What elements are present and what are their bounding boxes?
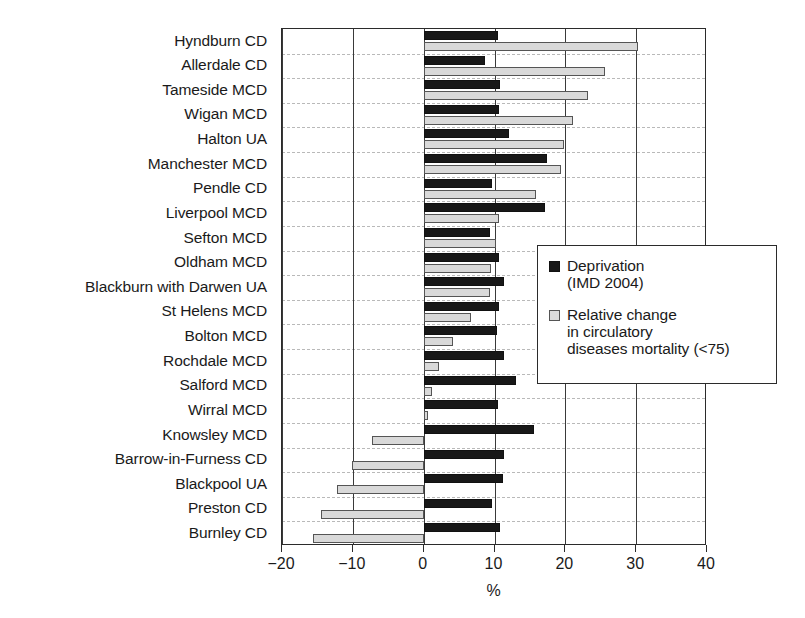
category-label: Wirral MCD xyxy=(0,397,274,422)
category-label: Pendle CD xyxy=(0,176,274,201)
legend-entry: Relative changein circulatorydiseases mo… xyxy=(549,306,766,358)
bar-group xyxy=(282,448,705,473)
category-label: Blackburn with Darwen UA xyxy=(0,274,274,299)
category-label: Bolton MCD xyxy=(0,324,274,349)
bar-chart: Hyndburn CDAllerdale CDTameside MCDWigan… xyxy=(0,0,805,618)
bar-deprivation xyxy=(424,499,493,508)
x-tick-label: 30 xyxy=(626,555,644,573)
bar-relative-change xyxy=(424,165,561,174)
category-label: Liverpool MCD xyxy=(0,200,274,225)
bar-group xyxy=(282,177,705,202)
bar-deprivation xyxy=(424,154,547,163)
legend-swatch-black-square-icon xyxy=(549,261,560,272)
bar-deprivation xyxy=(424,31,498,40)
x-tick-label: 20 xyxy=(555,555,573,573)
bar-group xyxy=(282,497,705,522)
bar-relative-change xyxy=(313,534,424,543)
chart-legend: Deprivation(IMD 2004)Relative changein c… xyxy=(537,245,777,384)
x-tick xyxy=(423,545,424,552)
bar-relative-change xyxy=(424,190,536,199)
bar-deprivation xyxy=(424,425,535,434)
bar-deprivation xyxy=(424,277,505,286)
bar-group xyxy=(282,29,705,54)
legend-swatch-gray-square-icon xyxy=(549,310,560,321)
bar-relative-change xyxy=(424,140,564,149)
category-label: Allerdale CD xyxy=(0,53,274,78)
bar-group xyxy=(282,127,705,152)
category-label: Tameside MCD xyxy=(0,77,274,102)
legend-label: Deprivation(IMD 2004) xyxy=(567,257,644,292)
category-label: Preston CD xyxy=(0,496,274,521)
bar-relative-change xyxy=(424,264,491,273)
bar-group xyxy=(282,78,705,103)
x-axis: −20−10010203040 xyxy=(281,545,706,546)
x-tick-label: −10 xyxy=(338,555,365,573)
bar-group xyxy=(282,54,705,79)
bar-deprivation xyxy=(424,253,500,262)
bar-deprivation xyxy=(424,302,500,311)
bar-deprivation xyxy=(424,450,504,459)
bar-deprivation xyxy=(424,376,517,385)
bar-deprivation xyxy=(424,351,505,360)
legend-entry: Deprivation(IMD 2004) xyxy=(549,257,766,292)
x-tick-label: 10 xyxy=(485,555,503,573)
category-label: Oldham MCD xyxy=(0,250,274,275)
bar-group xyxy=(282,472,705,497)
bar-deprivation xyxy=(424,474,503,483)
bar-relative-change xyxy=(337,485,424,494)
bar-group xyxy=(282,103,705,128)
bar-deprivation xyxy=(424,523,501,532)
bar-relative-change xyxy=(321,510,424,519)
x-tick xyxy=(494,545,495,552)
x-tick-label: 40 xyxy=(697,555,715,573)
x-tick xyxy=(635,545,636,552)
x-tick xyxy=(564,545,565,552)
category-label: Halton UA xyxy=(0,127,274,152)
category-axis-labels: Hyndburn CDAllerdale CDTameside MCDWigan… xyxy=(0,28,274,545)
x-tick xyxy=(706,545,707,552)
category-label: Wigan MCD xyxy=(0,102,274,127)
bar-deprivation xyxy=(424,179,492,188)
bar-relative-change xyxy=(424,91,588,100)
bar-relative-change xyxy=(424,239,496,248)
bar-relative-change xyxy=(424,411,428,420)
bar-deprivation xyxy=(424,105,500,114)
bar-deprivation xyxy=(424,326,498,335)
bar-deprivation xyxy=(424,129,510,138)
x-tick-label: −20 xyxy=(267,555,294,573)
bar-group xyxy=(282,521,705,544)
bar-relative-change xyxy=(424,337,453,346)
bar-relative-change xyxy=(424,387,433,396)
bar-relative-change xyxy=(424,214,499,223)
category-label: St Helens MCD xyxy=(0,299,274,324)
category-label: Burnley CD xyxy=(0,521,274,546)
bar-deprivation xyxy=(424,80,501,89)
bar-relative-change xyxy=(372,436,424,445)
bar-relative-change xyxy=(424,288,490,297)
category-label: Barrow-in-Furness CD xyxy=(0,447,274,472)
bar-deprivation xyxy=(424,203,546,212)
bar-relative-change xyxy=(424,313,471,322)
category-label: Sefton MCD xyxy=(0,225,274,250)
bar-group xyxy=(282,398,705,423)
category-label: Manchester MCD xyxy=(0,151,274,176)
x-tick-label: 0 xyxy=(418,555,427,573)
bar-relative-change xyxy=(424,116,573,125)
category-label: Rochdale MCD xyxy=(0,348,274,373)
legend-label: Relative changein circulatorydiseases mo… xyxy=(567,306,730,358)
bar-group xyxy=(282,201,705,226)
bar-group xyxy=(282,152,705,177)
category-label: Knowsley MCD xyxy=(0,422,274,447)
bar-relative-change xyxy=(352,461,424,470)
x-tick xyxy=(352,545,353,552)
bar-deprivation xyxy=(424,228,490,237)
bar-deprivation xyxy=(424,56,486,65)
x-axis-title: % xyxy=(486,582,500,600)
bar-relative-change xyxy=(424,67,605,76)
bar-relative-change xyxy=(424,42,639,51)
bar-relative-change xyxy=(424,362,439,371)
bar-group xyxy=(282,423,705,448)
category-label: Hyndburn CD xyxy=(0,28,274,53)
x-tick xyxy=(281,545,282,552)
category-label: Blackpool UA xyxy=(0,471,274,496)
